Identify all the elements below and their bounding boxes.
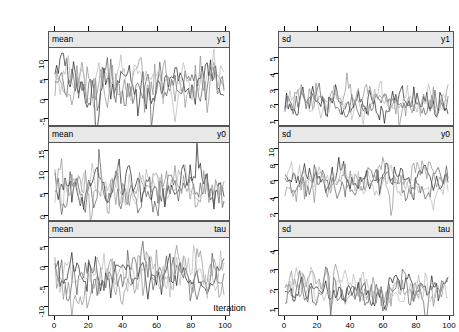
y-tick-label: 2 (268, 213, 277, 217)
x-tick-mark (317, 316, 318, 320)
y-tick-label: 0 (38, 215, 47, 219)
x-tick-mark-top (284, 26, 285, 31)
y-tick-label: 10 (38, 60, 47, 69)
x-tick-label: 80 (186, 321, 195, 330)
y-tick-label: 4 (268, 197, 277, 201)
y-tick-label: 0 (38, 266, 47, 270)
y-tick-label: -5 (38, 286, 47, 293)
panel-mean-y0: meany0 (48, 126, 230, 221)
x-tick-mark-top (383, 26, 384, 31)
x-tick-label: 20 (313, 321, 322, 330)
strip-header-mean-tau: meantau (48, 221, 230, 238)
strip-header-sd-y1: sdy1 (278, 31, 454, 48)
x-tick-label: 40 (346, 321, 355, 330)
y-axis-mean-y0: 051015 (14, 143, 48, 221)
y-axis-sd-y1: 12345 (244, 48, 278, 126)
strip-header-mean-y1: meany1 (48, 31, 230, 48)
y-tick-label: -5 (38, 118, 47, 125)
x-tick-label: 60 (152, 321, 161, 330)
y-tick-label: 3 (268, 89, 277, 93)
y-tick-label: 5 (38, 246, 47, 250)
y-tick-label: 0 (38, 99, 47, 103)
x-tick-mark (191, 316, 192, 320)
x-tick-mark (88, 316, 89, 320)
y-tick-label: 4 (268, 250, 277, 254)
x-tick-mark (225, 316, 226, 320)
x-tick-mark (416, 316, 417, 320)
strip-label-right: tau (214, 225, 226, 234)
x-tick-mark (350, 316, 351, 320)
strip-label-left: sd (282, 225, 291, 234)
x-tick-mark-top (350, 26, 351, 31)
chain-trace (55, 241, 224, 301)
x-tick-label: 80 (412, 321, 421, 330)
strip-label-right: tau (438, 225, 450, 234)
panel-mean-y1: meany1 (48, 31, 230, 126)
strip-label-right: y1 (217, 35, 226, 44)
strip-label-right: y0 (441, 130, 450, 139)
y-tick-label: 3 (268, 269, 277, 273)
x-tick-mark (54, 316, 55, 320)
strip-header-sd-y0: sdy0 (278, 126, 454, 143)
plot-area-mean-y1 (48, 48, 230, 126)
y-axis-sd-y0: 246810 (244, 143, 278, 221)
y-tick-label: 1 (268, 120, 277, 124)
y-axis-mean-y1: -50510 (14, 48, 48, 126)
y-tick-label: 10 (38, 171, 47, 180)
x-tick-mark-top (225, 26, 226, 31)
x-tick-mark (284, 316, 285, 320)
strip-header-sd-tau: sdtau (278, 221, 454, 238)
chain-trace (285, 81, 448, 124)
x-tick-label: 0 (282, 321, 286, 330)
x-tick-mark (157, 316, 158, 320)
x-tick-mark-top (317, 26, 318, 31)
x-tick-mark (122, 316, 123, 320)
x-axis-mean-column: 020406080100 (48, 316, 230, 332)
y-tick-label: 8 (268, 164, 277, 168)
y-tick-label: 5 (268, 57, 277, 61)
chain-trace (285, 73, 448, 125)
chain-trace (55, 53, 224, 125)
strip-label-left: sd (282, 35, 291, 44)
x-tick-label: 100 (442, 321, 455, 330)
panel-sd-y0: sdy0 (278, 126, 454, 221)
x-tick-mark-top (54, 26, 55, 31)
x-axis-title: Iteration (0, 303, 459, 313)
x-tick-mark-top (416, 26, 417, 31)
x-tick-label: 60 (379, 321, 388, 330)
strip-label-left: mean (52, 225, 73, 234)
x-axis-top-ticks (48, 25, 230, 31)
strip-label-right: y0 (217, 130, 226, 139)
x-tick-label: 0 (52, 321, 56, 330)
x-axis-sd-column: 020406080100 (278, 316, 454, 332)
plot-area-sd-y1 (278, 48, 454, 126)
y-tick-label: 5 (38, 193, 47, 197)
x-axis-top-ticks (278, 25, 454, 31)
plot-area-mean-y0 (48, 143, 230, 221)
x-tick-label: 100 (218, 321, 231, 330)
panel-mean-tau: meantau (48, 221, 230, 316)
strip-label-right: y1 (441, 35, 450, 44)
y-tick-label: 5 (38, 79, 47, 83)
x-tick-mark (449, 316, 450, 320)
x-tick-mark-top (191, 26, 192, 31)
plot-area-sd-y0 (278, 143, 454, 221)
strip-label-left: mean (52, 130, 73, 139)
panel-sd-tau: sdtau (278, 221, 454, 316)
x-tick-label: 20 (84, 321, 93, 330)
x-tick-label: 40 (118, 321, 127, 330)
strip-label-left: sd (282, 130, 291, 139)
strip-header-mean-y0: meany0 (48, 126, 230, 143)
y-tick-label: 15 (38, 150, 47, 159)
x-tick-mark-top (157, 26, 158, 31)
x-tick-mark-top (122, 26, 123, 31)
y-tick-label: 10 (268, 148, 277, 157)
x-tick-mark (383, 316, 384, 320)
y-tick-label: 4 (268, 73, 277, 77)
x-tick-mark-top (449, 26, 450, 31)
panel-sd-y1: sdy1 (278, 31, 454, 126)
y-tick-label: 6 (268, 180, 277, 184)
y-tick-label: 2 (268, 289, 277, 293)
x-tick-mark-top (88, 26, 89, 31)
